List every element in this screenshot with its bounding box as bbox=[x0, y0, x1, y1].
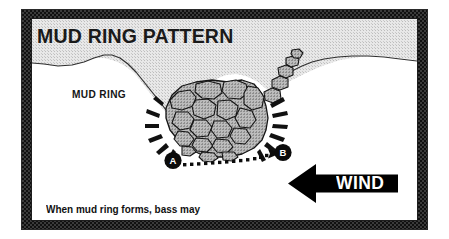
marker-b-letter: B bbox=[275, 148, 291, 158]
marker-a-letter: A bbox=[165, 156, 181, 166]
wind-label: WIND bbox=[336, 173, 384, 192]
caption-line-1: When mud ring forms, bass may bbox=[46, 203, 200, 216]
mud-ring-label: MUD RING bbox=[72, 89, 126, 100]
page-title: MUD RING PATTERN bbox=[37, 25, 233, 46]
mud-ring-pattern-illustration: MUD RING PATTERN MUD RING When mud ring … bbox=[0, 0, 449, 239]
caption: When mud ring forms, bass may relocate f… bbox=[46, 178, 200, 239]
